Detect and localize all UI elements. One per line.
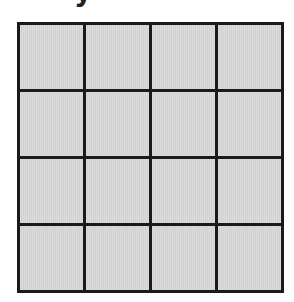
grid-cell-r3-c2 <box>86 159 149 223</box>
grid-cell-r2-c3 <box>152 92 215 156</box>
grid-cell-r2-c2 <box>86 92 149 156</box>
grid-cell-r4-c1 <box>20 226 83 290</box>
grid-cell-r3-c4 <box>218 159 281 223</box>
grid-cell-r4-c2 <box>86 226 149 290</box>
four-by-four-grid <box>17 22 284 293</box>
grid-cell-r3-c1 <box>20 159 83 223</box>
grid-cell-r3-c3 <box>152 159 215 223</box>
grid-cell-r2-c1 <box>20 92 83 156</box>
grid-cell-r1-c4 <box>218 25 281 89</box>
title-fragment: y <box>74 0 92 8</box>
cropped-title-text: y <box>0 0 294 6</box>
grid-cell-r1-c1 <box>20 25 83 89</box>
grid-cell-r4-c4 <box>218 226 281 290</box>
grid-cell-r4-c3 <box>152 226 215 290</box>
grid-cell-r1-c2 <box>86 25 149 89</box>
grid-cell-r1-c3 <box>152 25 215 89</box>
grid-cell-r2-c4 <box>218 92 281 156</box>
